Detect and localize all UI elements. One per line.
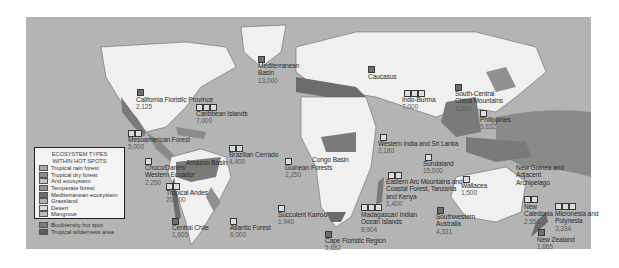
hotspot-name: Atlantic Forest [230, 224, 271, 231]
hotspot-label-westernindia[interactable]: Western India and Sri Lanka2,180 [378, 140, 458, 155]
hotspot-label-indoburma[interactable]: Indo-Burma7,000 [402, 96, 435, 111]
hotspot-name: Brazilian Cerrado [229, 151, 278, 158]
legend-label: Desert [51, 205, 68, 211]
legend-item: Temperate forest [39, 185, 124, 192]
hotspot-marker [137, 89, 144, 96]
hotspot-name: Philippines [480, 116, 511, 123]
hotspot-label-madagascar[interactable]: Madagascar/ Indian Ocean Islands8,904 [361, 211, 423, 233]
hotspot-marker [361, 204, 382, 211]
hotspot-label-micronesia[interactable]: Micronesia and Polynesia3,334 [555, 210, 600, 232]
hotspot-value: 5,832 [480, 123, 511, 130]
hotspot-label-cape[interactable]: Cape Floristic Region5,682 [325, 237, 386, 252]
hotspot-value: 7,000 [402, 103, 435, 110]
hotspot-name: Congo Basin [312, 156, 349, 163]
hotspot-name: New Caledonia [524, 203, 553, 217]
legend-swatch [39, 229, 48, 235]
hotspot-name: Wallacea [461, 182, 487, 189]
legend-label: Mediterranean ecosystem [51, 192, 118, 198]
hotspot-label-caribbean[interactable]: Caribbean Islands7,000 [196, 110, 247, 125]
hotspot-label-guinean[interactable]: Guinean Forests2,250 [285, 164, 332, 179]
hotspot-label-easternarc[interactable]: Eastern Arc Mountains and Coastal Forest… [386, 178, 464, 208]
legend-label: Mangrove [51, 211, 77, 217]
hotspot-label-karroo[interactable]: Succulent Karroo1,940 [278, 211, 327, 226]
legend-overlay-item: Tropical wilderness area [39, 228, 124, 235]
hotspot-label-andes[interactable]: Tropical Andes20,000 [166, 189, 208, 204]
legend-swatch [39, 165, 48, 171]
legend-label: Tropical dry forest [51, 172, 97, 178]
hotspot-name: South-Central China Mountains [455, 90, 503, 104]
legend-label: Arid ecosystem [51, 178, 91, 184]
hotspot-name: Sundaland [423, 160, 454, 167]
legend-item: Desert [39, 205, 124, 212]
legend-label: Tropical wilderness area [51, 229, 114, 235]
legend-swatch [39, 172, 48, 178]
hotspot-label-newguinea[interactable]: New Guinea and Adjacent Archipelago [516, 164, 566, 186]
hotspot-label-mediterranean[interactable]: Mediterranean Basin13,000 [258, 62, 298, 84]
hotspot-marker [368, 66, 375, 73]
hotspot-label-china[interactable]: South-Central China Mountains3,500 [455, 90, 507, 112]
hotspot-label-chile[interactable]: Central Chile1,605 [172, 224, 209, 239]
hotspot-marker [524, 196, 538, 203]
hotspot-value: 4,400 [229, 158, 278, 165]
hotspot-label-newzealand[interactable]: New Zealand1,865 [537, 236, 575, 251]
hotspot-label-sundaland[interactable]: Sundaland15,000 [423, 160, 454, 175]
hotspot-label-amazon[interactable]: Amazon Basin [186, 159, 227, 166]
hotspot-marker [555, 203, 576, 210]
legend-swatch [39, 222, 48, 228]
hotspot-value: 15,000 [423, 167, 454, 174]
legend-label: Grassland [51, 198, 77, 204]
hotspot-name: Central Chile [172, 224, 209, 231]
hotspot-label-swaustralia[interactable]: Southwestern Australia4,331 [436, 213, 478, 235]
legend-label: Temperate forest [51, 185, 95, 191]
hotspot-name: New Guinea and Adjacent Archipelago [516, 164, 564, 186]
hotspot-name: Caucasus [368, 73, 397, 80]
legend-title: ECOSYSTEM TYPES WITHIN HOT SPOTS [35, 151, 124, 165]
hotspot-value: 3,334 [555, 225, 600, 232]
hotspot-name: Tropical Andes [166, 189, 208, 196]
legend-swatch [39, 198, 48, 204]
legend-label: Biodiversity hot spot [51, 222, 103, 228]
hotspot-name: New Zealand [537, 236, 575, 243]
hotspot-value: 1,865 [537, 243, 575, 250]
hotspot-label-cerrado[interactable]: Brazilian Cerrado4,400 [229, 151, 278, 166]
hotspot-value: 1,605 [172, 231, 209, 238]
legend-swatch [39, 178, 48, 184]
hotspot-value: 2,551 [524, 218, 554, 225]
hotspot-name: California Floristic Province [136, 96, 213, 103]
hotspot-name: Southwestern Australia [436, 213, 475, 227]
hotspot-label-philippines[interactable]: Philippines5,832 [480, 116, 511, 131]
hotspot-value: 4,331 [436, 228, 478, 235]
hotspot-name: Mediterranean Basin [258, 62, 299, 76]
legend-title-line2: WITHIN HOT SPOTS [35, 158, 124, 165]
hotspot-label-atlantic[interactable]: Atlantic Forest6,000 [230, 224, 271, 239]
hotspot-value: 1,940 [278, 218, 327, 225]
hotspot-value: 6,000 [230, 231, 271, 238]
hotspot-name: Madagascar/ Indian Ocean Islands [361, 211, 417, 225]
hotspot-name: Cape Floristic Region [325, 237, 386, 244]
hotspot-value: 7,000 [196, 117, 247, 124]
hotspot-name: Eastern Arc Mountains and Coastal Forest… [386, 178, 463, 200]
legend-item: Mangrove [39, 211, 124, 218]
hotspot-value: 13,000 [258, 77, 298, 84]
hotspot-label-mesoamerica[interactable]: Mesoamerican Forest5,000 [128, 136, 190, 151]
legend-item: Arid ecosystem [39, 178, 124, 185]
hotspot-name: Western India and Sri Lanka [378, 140, 458, 147]
hotspot-value: 1,500 [461, 189, 487, 196]
hotspot-label-newcaledonia[interactable]: New Caledonia2,551 [524, 203, 554, 225]
hotspot-marker [538, 229, 545, 236]
hotspot-name: Guinean Forests [285, 164, 332, 171]
hotspot-value: 5,682 [325, 244, 386, 251]
hotspot-name: Succulent Karroo [278, 211, 327, 218]
hotspot-label-congo[interactable]: Congo Basin [312, 156, 349, 163]
hotspot-name: Indo-Burma [402, 96, 435, 103]
legend-item: Tropical rain forest [39, 165, 124, 172]
legend-items: Tropical rain forestTropical dry forestA… [35, 165, 124, 235]
hotspot-value: 2,180 [378, 147, 458, 154]
hotspot-label-wallacea[interactable]: Wallacea1,500 [461, 182, 487, 197]
legend: ECOSYSTEM TYPES WITHIN HOT SPOTS Tropica… [34, 147, 125, 219]
legend-item: Tropical dry forest [39, 172, 124, 179]
hotspot-label-caucasus[interactable]: Caucasus [368, 73, 397, 80]
hotspot-name: Mesoamerican Forest [128, 136, 190, 143]
hotspot-value: 5,000 [128, 143, 190, 150]
legend-item: Mediterranean ecosystem [39, 191, 124, 198]
